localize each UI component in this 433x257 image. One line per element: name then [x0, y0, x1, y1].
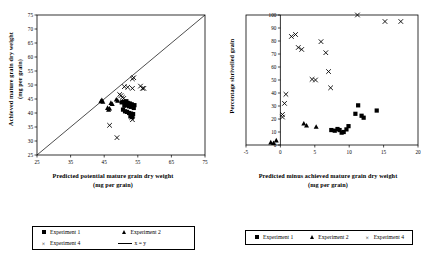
svg-text:90: 90	[271, 25, 277, 31]
legend-item-experiment-1: Experiment 1	[246, 234, 301, 241]
right-x-axis-title: Predicted minus achieved mature grain dr…	[228, 172, 428, 189]
legend-item-experiment-2: Experiment 2	[301, 234, 356, 241]
left-x-axis-title-line1: Predicted potential mature grain dry wei…	[18, 172, 208, 181]
svg-text:60: 60	[271, 64, 277, 70]
svg-text:35: 35	[28, 124, 34, 130]
svg-text:60: 60	[28, 54, 34, 60]
svg-text:-5: -5	[244, 149, 249, 155]
svg-text:80: 80	[271, 38, 277, 44]
svg-text:100: 100	[269, 12, 277, 18]
svg-text:70: 70	[271, 51, 277, 57]
legend-right: Experiment 1 Experiment 2 × Experiment 4	[245, 230, 413, 245]
svg-text:10: 10	[347, 149, 353, 155]
svg-text:30: 30	[271, 103, 277, 109]
svg-text:45: 45	[28, 96, 34, 102]
legend-item-experiment-1: Experiment 1	[33, 229, 114, 236]
svg-text:30: 30	[28, 138, 34, 144]
legend-label: Experiment 2	[131, 229, 161, 236]
svg-text:35: 35	[68, 159, 74, 165]
legend-label: Experiment 1	[50, 229, 80, 236]
square-marker-icon	[40, 229, 47, 236]
svg-text:55: 55	[135, 159, 141, 165]
svg-text:55: 55	[28, 68, 34, 74]
left-y-axis-title: Achieved mature grain dry weight (mg per…	[7, 10, 24, 148]
svg-text:75: 75	[28, 12, 34, 18]
svg-text:40: 40	[271, 90, 277, 96]
svg-text:15: 15	[381, 149, 387, 155]
svg-text:45: 45	[102, 159, 108, 165]
left-x-axis-title-line2: (mg per grain)	[18, 181, 208, 190]
svg-text:65: 65	[169, 159, 175, 165]
svg-text:70: 70	[28, 26, 34, 32]
right-x-axis-title-line1: Predicted minus achieved mature grain dr…	[228, 172, 428, 181]
legend-left: Experiment 1 Experiment 2 × Experiment 4…	[32, 226, 195, 250]
legend-label: x = y	[135, 240, 147, 247]
svg-text:25: 25	[34, 159, 40, 165]
svg-text:75: 75	[202, 159, 208, 165]
svg-text:50: 50	[271, 77, 277, 83]
svg-text:65: 65	[28, 40, 34, 46]
left-y-axis-title-line1: Achieved mature grain dry weight	[7, 10, 16, 148]
svg-text:40: 40	[28, 110, 34, 116]
right-x-axis-title-line2: (mg per grain)	[228, 181, 428, 190]
left-y-axis-title-line2: (mg per grain)	[16, 10, 25, 148]
triangle-marker-icon	[121, 229, 128, 236]
figure-container: 2535455565752530354045505560657075 Achie…	[0, 0, 433, 257]
svg-text:5: 5	[314, 149, 317, 155]
legend-item-identity-line: x = y	[114, 240, 195, 247]
legend-item-experiment-4: × Experiment 4	[357, 234, 412, 241]
legend-label: Experiment 4	[374, 234, 404, 241]
square-marker-icon	[253, 234, 260, 241]
svg-text:10: 10	[271, 129, 277, 135]
triangle-marker-icon	[308, 234, 315, 241]
svg-text:20: 20	[415, 149, 421, 155]
line-marker-icon	[118, 243, 132, 244]
svg-text:20: 20	[271, 116, 277, 122]
svg-text:0: 0	[279, 149, 282, 155]
legend-item-experiment-2: Experiment 2	[114, 229, 195, 236]
svg-text:50: 50	[28, 82, 34, 88]
left-x-axis-title: Predicted potential mature grain dry wei…	[18, 172, 208, 189]
right-y-axis-title: Percentage shrivelled grain	[228, 12, 237, 140]
right-y-axis-title-line1: Percentage shrivelled grain	[228, 12, 237, 140]
cross-marker-icon: ×	[40, 241, 47, 247]
svg-text:25: 25	[28, 152, 34, 158]
legend-label: Experiment 4	[50, 240, 80, 247]
legend-item-experiment-4: × Experiment 4	[33, 240, 114, 247]
legend-label: Experiment 1	[263, 234, 293, 241]
cross-marker-icon: ×	[364, 235, 371, 241]
legend-label: Experiment 2	[318, 234, 348, 241]
